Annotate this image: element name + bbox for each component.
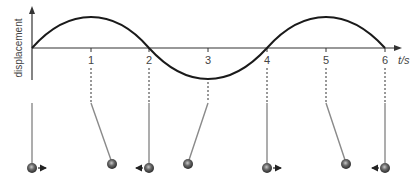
pendulum-bob — [341, 159, 351, 169]
pendulum-bob — [107, 159, 117, 169]
pendulum-t3 — [183, 103, 208, 169]
x-axis: t/s 1 2 3 4 5 6 — [32, 45, 410, 66]
pendulum-t2 — [136, 103, 154, 173]
pendulum-string — [326, 103, 345, 160]
pendulum-t6 — [372, 103, 390, 173]
x-axis-arrow-icon — [394, 45, 402, 51]
y-axis: displacement — [13, 6, 35, 80]
pendulum-t5 — [326, 103, 351, 169]
pendulum-bob — [27, 163, 37, 173]
pendulum-bob — [183, 159, 193, 169]
pendulum-t1 — [91, 103, 117, 169]
pendulum-bob — [144, 163, 154, 173]
pendulum-bob — [380, 163, 390, 173]
x-tick-3: 3 — [205, 54, 211, 66]
pendulum-displacement-diagram: displacement t/s 1 2 3 4 5 6 — [0, 0, 417, 181]
x-tick-5: 5 — [323, 54, 329, 66]
x-axis-label: t/s — [398, 54, 410, 66]
pendulum-t4 — [262, 103, 281, 173]
pendulum-bob — [262, 163, 272, 173]
pendulum-string — [91, 103, 111, 160]
y-axis-label: displacement — [13, 18, 24, 77]
x-tick-6: 6 — [382, 54, 388, 66]
x-tick-2: 2 — [146, 54, 152, 66]
pendulum-t0 — [27, 103, 46, 173]
pendulum-string — [189, 103, 208, 160]
y-axis-arrow-icon — [29, 6, 35, 14]
dashed-guides — [91, 68, 385, 102]
x-tick-4: 4 — [264, 54, 270, 66]
x-tick-1: 1 — [88, 54, 94, 66]
